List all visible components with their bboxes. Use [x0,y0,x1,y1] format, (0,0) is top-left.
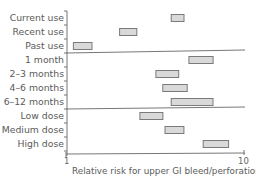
range-bar-recent-use [120,29,137,36]
range-bar-2-3-months [156,71,179,78]
range-bar-medium-dose [165,127,184,134]
row-label-1-month: 1 month [25,54,64,65]
range-bar-6-12-months [171,99,213,106]
group-separator-duration-dose [66,107,245,109]
range-bar-past-use [73,43,92,50]
x-axis-label: Relative risk for upper GI bleed/perfora… [72,166,256,176]
range-bar-1-month [189,57,213,64]
relative-risk-chart: Current use Recent use Past use 1 month … [0,0,256,187]
row-label-2-3-months: 2–3 months [10,68,64,79]
range-bar-high-dose [203,141,228,148]
row-label-medium-dose: Medium dose [2,124,64,135]
range-bar-current-use [171,15,184,22]
x-axis [66,153,245,154]
row-label-low-dose: Low dose [21,110,64,121]
row-label-recent-use: Recent use [12,26,64,37]
group-separator-timing-duration [66,50,245,53]
range-bar-low-dose [140,113,163,120]
row-label-current-use: Current use [10,12,64,23]
x-tick-10: 10 [238,156,249,166]
range-bar-4-6-months [163,85,187,92]
x-tick-1: 1 [64,156,69,166]
row-label-high-dose: High dose [18,138,64,149]
row-label-6-12-months: 6–12 months [4,96,64,107]
row-label-past-use: Past use [25,40,64,51]
row-label-4-6-months: 4–6 months [10,82,64,93]
